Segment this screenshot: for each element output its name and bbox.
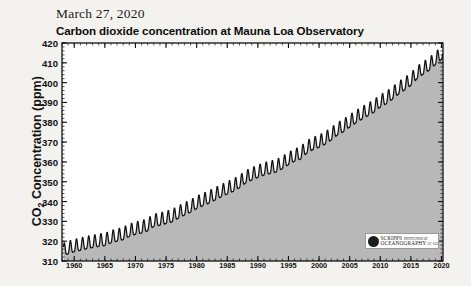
scripps-oceanography-logo: SCRIPPS INSTITUTION OF OCEANOGRAPHY UC S…	[365, 233, 439, 249]
logo-ucsd-word: UC SAN DIEGO	[428, 242, 439, 246]
co2-chart-figure: March 27, 2020 Carbon dioxide concentrat…	[0, 0, 471, 286]
logo-line-2: OCEANOGRAPHY UC SAN DIEGO	[381, 241, 440, 246]
logo-text: SCRIPPS INSTITUTION OF OCEANOGRAPHY UC S…	[381, 236, 440, 247]
logo-oceanography-word: OCEANOGRAPHY	[381, 240, 427, 246]
scripps-globe-icon	[368, 236, 379, 247]
